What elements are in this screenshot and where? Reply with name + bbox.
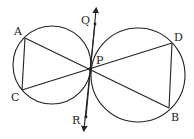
label-a: A — [13, 25, 23, 38]
segment-ac — [22, 38, 25, 90]
point-p-dot — [88, 67, 92, 71]
tangent-line-rq — [84, 24, 95, 129]
point-q-dot — [94, 23, 97, 26]
label-c: C — [11, 91, 19, 104]
label-r: R — [72, 114, 81, 127]
point-r-dot — [85, 116, 88, 119]
label-b: B — [171, 111, 179, 124]
label-q: Q — [81, 14, 90, 27]
label-d: D — [174, 31, 183, 44]
geometry-diagram: A C P D B Q R — [0, 0, 194, 139]
label-p: P — [96, 54, 104, 67]
segment-db — [169, 43, 172, 108]
